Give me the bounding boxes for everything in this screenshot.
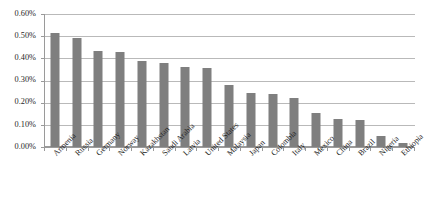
x-tick-label: Italy [291,142,308,159]
x-tick-label: Nigeria [378,135,401,158]
x-tick-label: Brazil [357,138,377,158]
x-tick-label: Latvia [182,137,203,158]
x-tick-label: China [335,138,355,158]
x-tick-label: Armenia [52,132,78,158]
x-tick-label: Japan [248,139,267,158]
x-tick-label: Mexico [313,135,337,159]
x-tick-label: Russia [74,137,95,158]
x-tick-label: Ethiopia [400,133,425,158]
